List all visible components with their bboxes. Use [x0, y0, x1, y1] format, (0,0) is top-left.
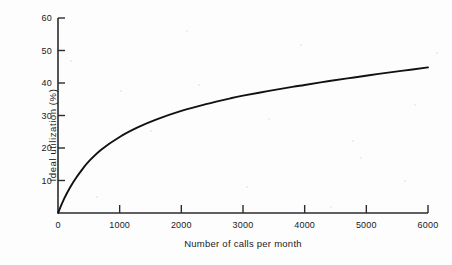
y-axis-title: Ideal utilization (%) — [47, 89, 58, 182]
x-axis-title: Number of calls per month — [184, 238, 302, 249]
x-tick-label: 1000 — [109, 221, 130, 230]
line-chart-plot — [0, 0, 452, 265]
data-series-line — [58, 67, 428, 213]
y-tick-label: 40 — [30, 79, 52, 88]
x-tick-label: 5000 — [356, 221, 377, 230]
x-tick-label: 0 — [55, 221, 60, 230]
x-tick-marks — [120, 205, 428, 213]
y-tick-marks — [58, 18, 65, 181]
chart-axes — [58, 18, 428, 213]
x-tick-label: 6000 — [418, 221, 439, 230]
x-tick-label: 4000 — [294, 221, 315, 230]
y-tick-label: 60 — [30, 14, 52, 23]
x-tick-label: 3000 — [233, 221, 254, 230]
x-tick-label: 2000 — [171, 221, 192, 230]
chart-figure: 102030405060 0100020003000400050006000 N… — [0, 0, 452, 265]
y-tick-label: 50 — [30, 46, 52, 55]
